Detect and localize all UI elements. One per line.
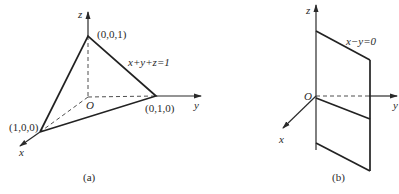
vertex-label-z: (0,0,1) xyxy=(97,28,127,41)
plane-triangle xyxy=(40,36,156,132)
y-axis-hidden-a xyxy=(88,96,156,97)
z-label-b: z xyxy=(305,4,311,16)
vertex-label-y: (0,1,0) xyxy=(145,102,175,115)
x-axis-hidden-a xyxy=(40,97,88,132)
figure-b: z y x O x−y=0 (b) xyxy=(278,4,398,184)
x-axis-a xyxy=(20,132,40,146)
figure-a: z y x O (0,0,1) (0,1,0) (1,0,0) x+y+z=1 … xyxy=(9,8,201,184)
caption-b: (b) xyxy=(332,171,345,184)
plane-equation-a: x+y+z=1 xyxy=(127,56,170,68)
caption-a: (a) xyxy=(83,171,96,184)
origin-label-a: O xyxy=(86,99,94,111)
plane-middle-line xyxy=(316,98,370,119)
x-label-b: x xyxy=(278,133,284,145)
y-label-a: y xyxy=(193,99,199,111)
origin-label-b: O xyxy=(304,90,312,102)
plane-equation-b: x−y=0 xyxy=(345,35,377,47)
z-label-a: z xyxy=(77,8,83,20)
vertex-label-x: (1,0,0) xyxy=(9,121,39,134)
diagram-canvas: z y x O (0,0,1) (0,1,0) (1,0,0) x+y+z=1 … xyxy=(0,0,399,194)
x-label-a: x xyxy=(18,146,24,158)
y-label-b: y xyxy=(392,99,398,111)
plane-bottom-edge xyxy=(316,143,370,171)
